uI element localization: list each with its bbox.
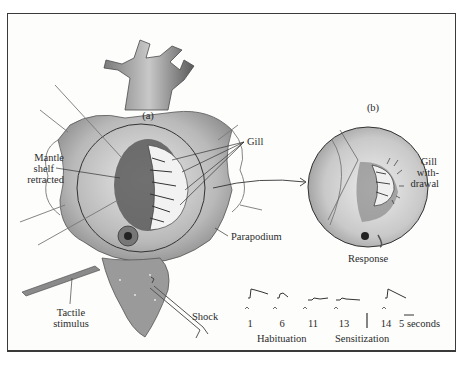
label-shock: Shock: [192, 311, 218, 322]
label-mantle-line1: Mantle: [14, 152, 64, 163]
stimulus-marks: [245, 307, 386, 309]
trial-label-1: 1: [245, 318, 255, 329]
tail: [102, 258, 169, 337]
group-sensitization: Sensitization: [335, 333, 389, 344]
label-gill: Gill: [247, 136, 263, 147]
trial-label-11: 11: [306, 318, 320, 329]
label-gill-withdrawal-line3: drawal: [396, 178, 439, 189]
response-traces: [248, 289, 406, 300]
label-tactile-line1: Tactile: [46, 307, 96, 318]
tactile-probe: [22, 266, 100, 304]
head: [104, 40, 194, 110]
group-habituation: Habituation: [257, 333, 307, 344]
scale-bar-label: 5 seconds: [399, 318, 440, 329]
panel-a-label: (a): [138, 110, 158, 121]
trial-label-13: 13: [337, 318, 351, 329]
label-response: Response: [338, 253, 398, 264]
label-gill-withdrawal-line2: with-: [400, 167, 439, 178]
trial-label-14: 14: [379, 318, 393, 329]
label-mantle-line3: retracted: [10, 174, 64, 185]
label-parapodium: Parapodium: [231, 231, 282, 242]
label-mantle-line2: shelf: [14, 163, 54, 174]
label-gill-withdrawal-line1: Gill: [400, 156, 437, 167]
panel-b-label: (b): [363, 102, 383, 113]
label-tactile-line2: stimulus: [46, 318, 96, 329]
trial-label-6: 6: [277, 318, 287, 329]
